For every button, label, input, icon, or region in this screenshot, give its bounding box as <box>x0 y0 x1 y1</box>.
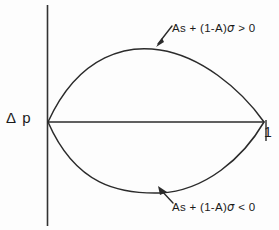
upper-annotation-arrow <box>156 26 172 47</box>
annotation-upper-curve: As + (1-A)σ > 0 <box>172 21 255 35</box>
x-endpoint-label: 1 <box>264 124 272 140</box>
sigma-icon: σ <box>227 200 235 214</box>
annotation-upper-lead: As + (1-A) <box>172 22 227 34</box>
annotation-lower-lead: As + (1-A) <box>172 201 227 213</box>
figure-container: Δ p 1 As + (1-A)σ > 0 As + (1-A)σ < 0 <box>0 0 279 230</box>
annotation-lower-curve: As + (1-A)σ < 0 <box>172 200 255 214</box>
sigma-icon: σ <box>227 21 235 35</box>
annotation-lower-relation: < 0 <box>235 201 256 213</box>
y-axis-label: Δ p <box>6 109 32 126</box>
lower-annotation-arrow <box>158 186 173 203</box>
annotation-upper-relation: > 0 <box>235 22 256 34</box>
upper-arc-curve <box>48 49 264 122</box>
lower-arc-curve <box>48 122 264 193</box>
